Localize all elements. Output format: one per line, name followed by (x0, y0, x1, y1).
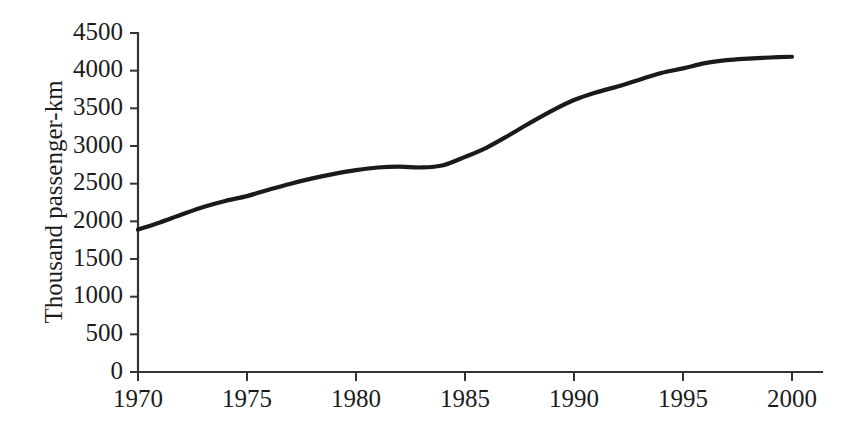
x-tick-label: 1980 (331, 385, 381, 412)
x-tick-label: 1985 (440, 385, 490, 412)
x-tick-label: 1975 (222, 385, 272, 412)
data-series-line (138, 57, 792, 230)
y-tick-label: 0 (111, 357, 124, 384)
y-tick-label: 500 (86, 319, 124, 346)
y-tick-label: 3000 (73, 131, 123, 158)
y-tick-label: 2500 (73, 168, 123, 195)
line-chart: Thousand passenger-km 050010001500200025… (0, 0, 848, 440)
y-tick-label: 3500 (73, 93, 123, 120)
y-tick-label: 4000 (73, 55, 123, 82)
y-axis-title-group: Thousand passenger-km (40, 80, 67, 324)
y-tick-label: 1000 (73, 281, 123, 308)
y-tick-label: 1500 (73, 244, 123, 271)
y-tick-label: 2000 (73, 206, 123, 233)
x-axis-ticks: 1970197519801985199019952000 (113, 372, 817, 412)
y-axis-ticks: 050010001500200025003000350040004500 (73, 18, 138, 384)
chart-figure: Thousand passenger-km 050010001500200025… (0, 0, 848, 440)
x-tick-label: 1970 (113, 385, 163, 412)
y-axis-title: Thousand passenger-km (40, 80, 67, 324)
x-tick-label: 2000 (767, 385, 817, 412)
y-tick-label: 4500 (73, 18, 123, 45)
x-tick-label: 1990 (549, 385, 599, 412)
x-tick-label: 1995 (658, 385, 708, 412)
